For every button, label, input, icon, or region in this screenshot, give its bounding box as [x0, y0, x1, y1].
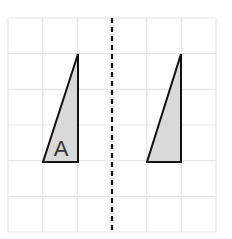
reflection-diagram: A: [0, 0, 232, 239]
triangle-a-label: A: [54, 136, 69, 161]
triangle-reflected: [147, 54, 181, 162]
